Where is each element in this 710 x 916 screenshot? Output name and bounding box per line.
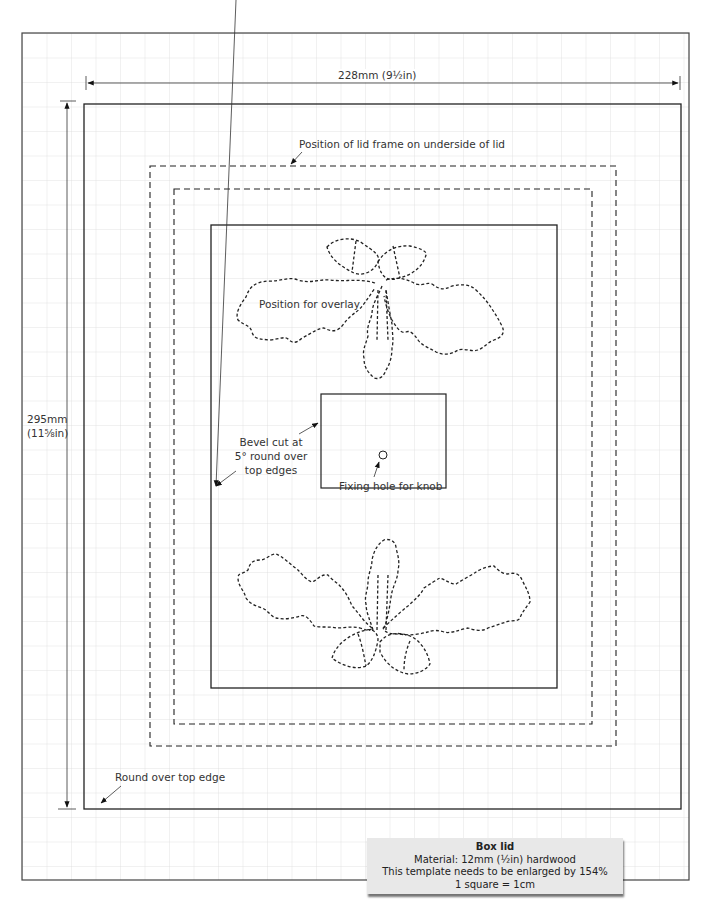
round-over-label: Round over top edge — [115, 771, 225, 784]
info-box-material: Material: 12mm (½in) hardwood — [367, 854, 623, 867]
height-dimension-label-line2: (11⅝in) — [27, 427, 68, 440]
grid-paper — [22, 33, 689, 880]
info-box-scale: 1 square = 1cm — [367, 879, 623, 892]
info-box-enlarge: This template needs to be enlarged by 15… — [367, 866, 623, 879]
fixing-hole-label: Fixing hole for knob — [339, 480, 442, 493]
overlay-label: Position for overlay — [259, 298, 360, 311]
bevel-label-line2: 5° round over — [234, 450, 308, 463]
bevel-label-line1: Bevel cut at — [238, 436, 304, 449]
height-dimension-label-line1: 295mm — [27, 413, 68, 426]
bevel-label-line3: top edges — [238, 464, 304, 477]
info-box: Box lid Material: 12mm (½in) hardwood Th… — [367, 838, 623, 894]
info-box-title: Box lid — [367, 841, 623, 854]
lid-frame-label: Position of lid frame on underside of li… — [299, 138, 505, 151]
width-dimension-label: 228mm (9½in) — [336, 69, 418, 82]
fixing-hole — [379, 451, 387, 459]
